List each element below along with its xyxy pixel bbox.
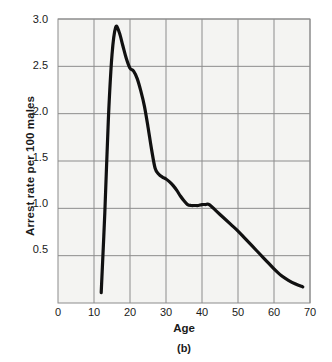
x-axis-title: Age bbox=[58, 322, 310, 334]
figure-caption: (b) bbox=[58, 342, 310, 354]
plot-area bbox=[0, 0, 332, 362]
chart-figure: Arrest rate per 100 males 3.0 2.5 2.0 1.… bbox=[0, 0, 332, 362]
